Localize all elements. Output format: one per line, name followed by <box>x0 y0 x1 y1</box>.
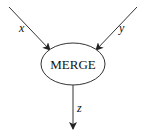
merge-node: MERGE <box>41 43 105 85</box>
edge-z-label: z <box>76 101 82 115</box>
edge-x-label: x <box>18 21 25 35</box>
edge-y: y <box>96 7 137 50</box>
edge-z: z <box>73 85 82 129</box>
merge-diagram: x y MERGE z <box>0 0 144 140</box>
edge-y-label: y <box>118 21 125 35</box>
merge-node-label: MERGE <box>50 57 96 72</box>
edge-x: x <box>9 7 50 50</box>
